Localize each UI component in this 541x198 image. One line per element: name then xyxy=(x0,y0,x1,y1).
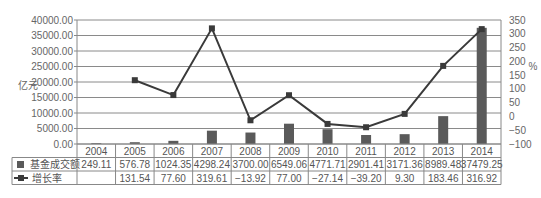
table-cell: 77.00 xyxy=(276,173,301,184)
table-cell: 576.78 xyxy=(120,159,151,170)
category-label: 2013 xyxy=(432,146,455,157)
bar xyxy=(207,131,217,144)
category-label: 2010 xyxy=(316,146,339,157)
table-cell: 4771.71 xyxy=(309,159,346,170)
legend-bar-swatch-icon xyxy=(17,161,24,168)
y2-tick-label: 350 xyxy=(509,15,526,26)
table-cell: 2901.41 xyxy=(348,159,385,170)
table-cell: 131.54 xyxy=(120,173,151,184)
legend-line-marker-icon xyxy=(18,175,24,181)
table-cell: 8989.48 xyxy=(425,159,462,170)
y-tick-label: 10000.00 xyxy=(31,108,73,119)
data-table: 2004200520062007200820092010201120122013… xyxy=(12,144,503,185)
y2-tick-label: −100 xyxy=(509,139,532,150)
category-label: 2004 xyxy=(85,146,108,157)
y-tick-label: 40000.00 xyxy=(31,15,73,26)
table-cell: 6549.06 xyxy=(271,159,308,170)
table-cell: −39.20 xyxy=(351,173,382,184)
table-cell: 4298.24 xyxy=(194,159,231,170)
y2-tick-label: 300 xyxy=(509,28,526,39)
table-cell: 183.46 xyxy=(428,173,459,184)
y-tick-label: 15000.00 xyxy=(31,92,73,103)
line-series-growth-rate xyxy=(132,25,485,130)
line-marker xyxy=(440,63,446,69)
line-marker xyxy=(479,26,485,32)
y2-tick-label: 50 xyxy=(509,97,521,108)
category-label: 2012 xyxy=(394,146,417,157)
y2-tick-label: −50 xyxy=(509,125,526,136)
left-axis-label: 亿元 xyxy=(18,79,38,91)
line-marker xyxy=(402,111,408,117)
y2-tick-label: 200 xyxy=(509,56,526,67)
table-cell: 9.30 xyxy=(395,173,415,184)
category-label: 2007 xyxy=(201,146,224,157)
category-label: 2014 xyxy=(471,146,494,157)
table-cell: 249.11 xyxy=(81,159,111,170)
category-label: 2011 xyxy=(355,146,377,157)
table-cell: 1024.35 xyxy=(155,159,192,170)
y2-tick-label: 150 xyxy=(509,70,526,81)
y2-tick-label: 100 xyxy=(509,83,526,94)
table-cell: 37479.25 xyxy=(461,159,503,170)
line-marker xyxy=(363,124,369,130)
table-cell: 3171.36 xyxy=(387,159,424,170)
legend-label-fund: 基金成交额 xyxy=(30,158,80,170)
line-marker xyxy=(325,121,331,127)
y-tick-label: 5000.00 xyxy=(37,123,74,134)
category-label: 2005 xyxy=(124,146,147,157)
y-tick-label: 0.00 xyxy=(54,139,74,150)
category-label: 2006 xyxy=(162,146,185,157)
table-cell: 77.60 xyxy=(161,173,186,184)
line-marker xyxy=(132,77,138,83)
line-marker xyxy=(170,92,176,98)
y-tick-label: 25000.00 xyxy=(31,61,73,72)
combo-chart: 0.005000.0010000.0015000.0020000.0025000… xyxy=(0,0,541,198)
y-tick-label: 35000.00 xyxy=(31,30,73,41)
table-cell: −27.14 xyxy=(312,173,343,184)
bar xyxy=(438,116,448,144)
category-label: 2008 xyxy=(239,146,262,157)
y2-tick-label: 0 xyxy=(509,111,515,122)
bar xyxy=(284,124,294,144)
bar xyxy=(245,133,255,144)
table-cell: 319.61 xyxy=(197,173,228,184)
line-marker xyxy=(247,117,253,123)
line-marker xyxy=(286,92,292,98)
bar xyxy=(323,129,333,144)
table-cell: 316.92 xyxy=(466,173,497,184)
legend-label-growth: 增长率 xyxy=(32,172,62,184)
right-axis-ticks: −100−50050100150200250300350 xyxy=(509,15,532,150)
category-label: 2009 xyxy=(278,146,301,157)
bar xyxy=(477,28,487,144)
right-axis-label: % xyxy=(529,61,538,72)
table-cell: 3700.00 xyxy=(232,159,269,170)
bar xyxy=(400,134,410,144)
y2-tick-label: 250 xyxy=(509,42,526,53)
bar xyxy=(361,135,371,144)
line-marker xyxy=(209,25,215,31)
y-tick-label: 30000.00 xyxy=(31,46,73,57)
table-cell: −13.92 xyxy=(235,173,266,184)
